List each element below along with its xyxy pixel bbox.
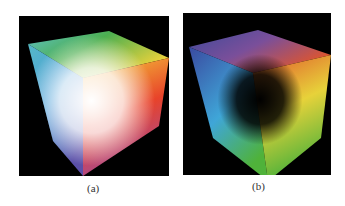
caption-a: (a) [87,182,99,194]
color-cube-black-corner [183,13,331,175]
color-cube-white-corner [19,16,169,176]
color-cube-panel-a [19,16,169,176]
color-cube-panel-b [183,13,331,175]
caption-b: (b) [252,180,265,192]
